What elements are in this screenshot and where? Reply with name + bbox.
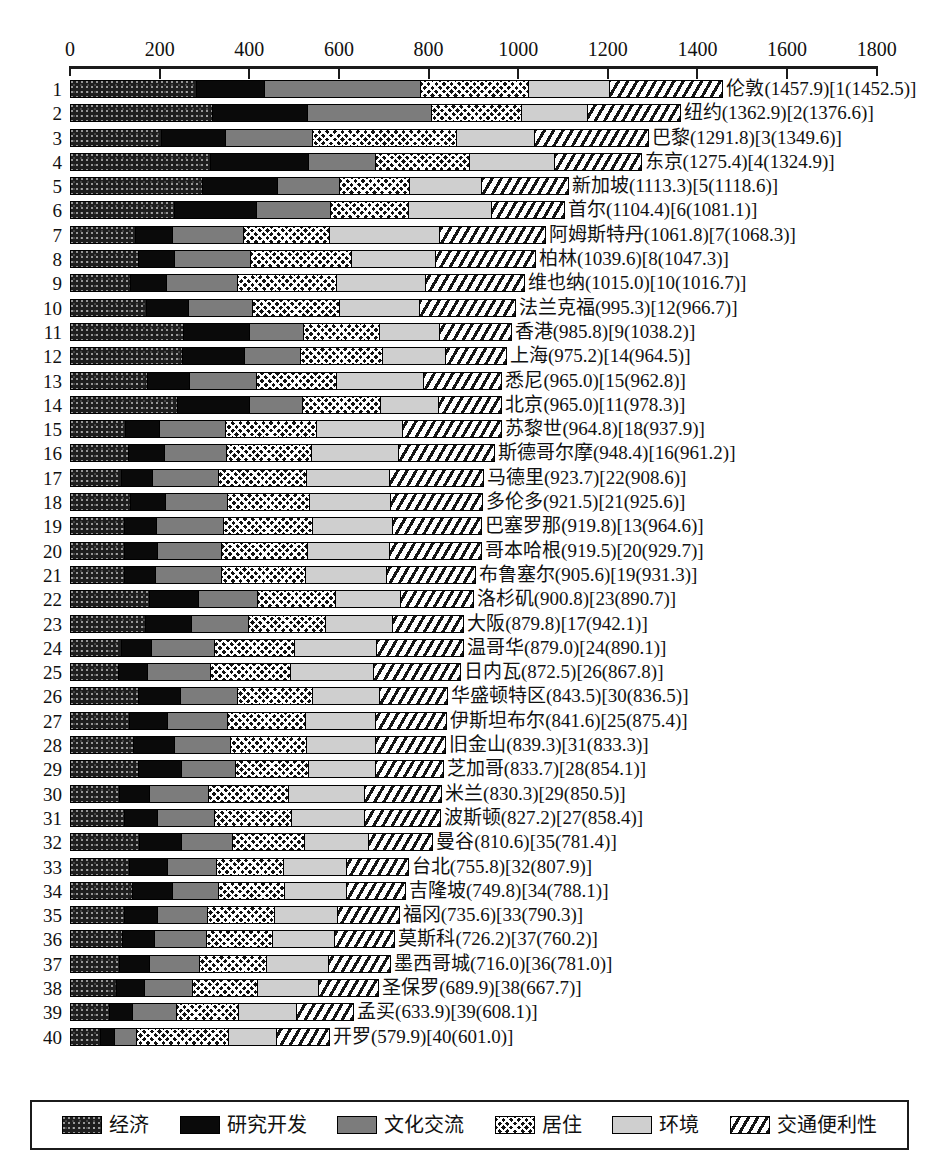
bar-value-label: 福冈(735.6)[33(790.3)]: [403, 904, 583, 925]
stacked-bar[interactable]: [70, 930, 395, 948]
stacked-bar[interactable]: [70, 687, 448, 705]
legend-item[interactable]: 环境: [612, 1114, 699, 1136]
bar-row[interactable]: 26华盛顿特区(843.5)[30(836.5)]: [0, 686, 939, 710]
bar-row[interactable]: 15苏黎世(964.8)[18(937.9)]: [0, 419, 939, 443]
bar-row[interactable]: 14北京(965.0)[11(978.3)]: [0, 395, 939, 419]
bar-row[interactable]: 30米兰(830.3)[29(850.5)]: [0, 784, 939, 808]
bar-row[interactable]: 39孟买(633.9)[39(608.1)]: [0, 1002, 939, 1026]
legend-item[interactable]: 研究开发: [180, 1114, 307, 1136]
bar-row[interactable]: 7阿姆斯特丹(1061.8)[7(1068.3)]: [0, 225, 939, 249]
stacked-bar[interactable]: [70, 833, 433, 851]
stacked-bar[interactable]: [70, 785, 442, 803]
bar-row[interactable]: 13悉尼(965.0)[15(962.8)]: [0, 371, 939, 395]
stacked-bar[interactable]: [70, 129, 649, 147]
bar-segment-culture: [249, 397, 302, 413]
stacked-bar[interactable]: [70, 736, 446, 754]
stacked-bar[interactable]: [70, 469, 484, 487]
stacked-bar[interactable]: [70, 979, 379, 997]
bar-segment-rnd: [125, 421, 158, 437]
stacked-bar[interactable]: [70, 955, 391, 973]
bar-row[interactable]: 33台北(755.8)[32(807.9)]: [0, 857, 939, 881]
bar-segment-economy: [71, 567, 124, 583]
bar-row[interactable]: 21布鲁塞尔(905.6)[19(931.3)]: [0, 565, 939, 589]
bar-row[interactable]: 4东京(1275.4)[4(1324.9)]: [0, 152, 939, 176]
stacked-bar[interactable]: [70, 760, 444, 778]
bar-segment-living: [243, 227, 329, 243]
stacked-bar[interactable]: [70, 1003, 354, 1021]
stacked-bar[interactable]: [70, 250, 536, 268]
bar-row[interactable]: 27伊斯坦布尔(841.6)[25(875.4)]: [0, 711, 939, 735]
stacked-bar[interactable]: [70, 809, 441, 827]
stacked-bar[interactable]: [70, 517, 482, 535]
stacked-bar[interactable]: [70, 858, 409, 876]
stacked-bar[interactable]: [70, 372, 502, 390]
bar-segment-accessibility: [439, 324, 511, 340]
bar-segment-environment: [284, 883, 345, 899]
bar-row[interactable]: 16斯德哥尔摩(948.4)[16(961.2)]: [0, 443, 939, 467]
stacked-bar[interactable]: [70, 177, 569, 195]
stacked-bar[interactable]: [70, 226, 546, 244]
stacked-bar[interactable]: [70, 347, 507, 365]
bar-row[interactable]: 20哥本哈根(919.5)[20(929.7)]: [0, 541, 939, 565]
stacked-bar[interactable]: [70, 712, 447, 730]
x-axis-tick: [248, 69, 250, 79]
bar-row[interactable]: 8柏林(1039.6)[8(1047.3)]: [0, 249, 939, 273]
bar-row[interactable]: 6首尔(1104.4)[6(1081.1)]: [0, 200, 939, 224]
bar-row[interactable]: 2纽约(1362.9)[2(1376.6)]: [0, 103, 939, 127]
bar-row[interactable]: 5新加坡(1113.3)[5(1118.6)]: [0, 176, 939, 200]
bar-value-label: 悉尼(965.0)[15(962.8)]: [505, 370, 685, 391]
stacked-bar[interactable]: [70, 615, 464, 633]
stacked-bar[interactable]: [70, 882, 406, 900]
legend-swatch-culture: [337, 1116, 377, 1134]
bar-row[interactable]: 38圣保罗(689.9)[38(667.7)]: [0, 978, 939, 1002]
bar-row[interactable]: 11香港(985.8)[9(1038.2)]: [0, 322, 939, 346]
bar-segment-economy: [71, 81, 196, 97]
legend-item[interactable]: 居住: [495, 1114, 582, 1136]
bar-row[interactable]: 23大阪(879.8)[17(942.1)]: [0, 614, 939, 638]
bar-row[interactable]: 35福冈(735.6)[33(790.3)]: [0, 905, 939, 929]
stacked-bar[interactable]: [70, 80, 723, 98]
stacked-bar[interactable]: [70, 639, 464, 657]
bar-row[interactable]: 18多伦多(921.5)[21(925.6)]: [0, 492, 939, 516]
stacked-bar[interactable]: [70, 542, 482, 560]
bar-row[interactable]: 31波斯顿(827.2)[27(858.4)]: [0, 808, 939, 832]
stacked-bar[interactable]: [70, 590, 474, 608]
bar-row[interactable]: 1伦敦(1457.9)[1(1452.5)]: [0, 79, 939, 103]
stacked-bar[interactable]: [70, 153, 642, 171]
stacked-bar[interactable]: [70, 906, 400, 924]
legend-item[interactable]: 交通便利性: [730, 1114, 877, 1136]
bar-segment-accessibility: [534, 130, 648, 146]
stacked-bar[interactable]: [70, 566, 476, 584]
stacked-bar[interactable]: [70, 1028, 330, 1046]
legend-item[interactable]: 经济: [62, 1114, 149, 1136]
bar-row[interactable]: 32曼谷(810.6)[35(781.4)]: [0, 832, 939, 856]
stacked-bar[interactable]: [70, 323, 512, 341]
stacked-bar[interactable]: [70, 444, 495, 462]
legend-swatch-accessibility: [730, 1116, 770, 1134]
bar-row[interactable]: 37墨西哥城(716.0)[36(781.0)]: [0, 954, 939, 978]
stacked-bar[interactable]: [70, 104, 681, 122]
legend-item[interactable]: 文化交流: [337, 1114, 464, 1136]
stacked-bar[interactable]: [70, 396, 502, 414]
bar-row[interactable]: 9维也纳(1015.0)[10(1016.7)]: [0, 273, 939, 297]
stacked-bar[interactable]: [70, 493, 483, 511]
stacked-bar[interactable]: [70, 201, 565, 219]
stacked-bar[interactable]: [70, 274, 525, 292]
bar-row[interactable]: 22洛杉矶(900.8)[23(890.7)]: [0, 589, 939, 613]
bar-row[interactable]: 10法兰克福(995.3)[12(966.7)]: [0, 298, 939, 322]
bar-row[interactable]: 17马德里(923.7)[22(908.6)]: [0, 468, 939, 492]
bar-row[interactable]: 36莫斯科(726.2)[37(760.2)]: [0, 929, 939, 953]
stacked-bar[interactable]: [70, 663, 461, 681]
bar-row[interactable]: 12上海(975.2)[14(964.5)]: [0, 346, 939, 370]
legend-swatch-rnd: [180, 1116, 220, 1134]
bar-row[interactable]: 28旧金山(839.3)[31(833.3)]: [0, 735, 939, 759]
stacked-bar[interactable]: [70, 299, 516, 317]
bar-row[interactable]: 3巴黎(1291.8)[3(1349.6)]: [0, 128, 939, 152]
bar-row[interactable]: 24温哥华(879.0)[24(890.1)]: [0, 638, 939, 662]
bar-row[interactable]: 40开罗(579.9)[40(601.0)]: [0, 1027, 939, 1051]
bar-row[interactable]: 29芝加哥(833.7)[28(854.1)]: [0, 759, 939, 783]
bar-row[interactable]: 19巴塞罗那(919.8)[13(964.6)]: [0, 516, 939, 540]
bar-row[interactable]: 25日内瓦(872.5)[26(867.8)]: [0, 662, 939, 686]
stacked-bar[interactable]: [70, 420, 502, 438]
bar-row[interactable]: 34吉隆坡(749.8)[34(788.1)]: [0, 881, 939, 905]
